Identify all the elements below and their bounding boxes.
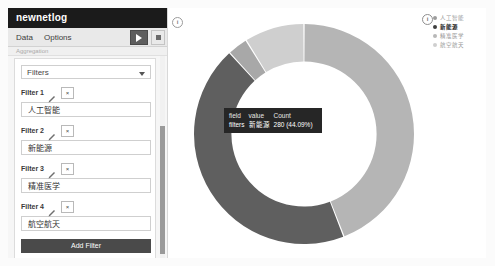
remove-filter-button[interactable]: ×	[61, 125, 74, 137]
filter-label: Filter 2	[21, 125, 44, 137]
visualization-editor-panel: newnetlog Data Options Aggregation Filte…	[8, 8, 168, 258]
legend-color-dot	[433, 34, 437, 38]
legend-item-label: 精准医学	[440, 32, 464, 40]
legend-color-dot	[433, 43, 437, 47]
legend-item[interactable]: 新能源	[433, 23, 483, 31]
chevron-down-icon	[139, 72, 145, 76]
buckets-card: Filters Filter 1 × 人工智能 Filter 2	[14, 58, 156, 258]
tooltip-data-row: filters 新能源 280 (44.09%)	[229, 120, 317, 129]
legend-item-label: 新能源	[440, 23, 458, 31]
add-filter-button[interactable]: Add Filter	[21, 239, 151, 253]
filter-query-input[interactable]: 精准医学	[21, 178, 151, 193]
tooltip-header-field: field	[229, 111, 249, 120]
pencil-icon[interactable]	[48, 127, 56, 135]
legend-item-label: 航空航天	[440, 41, 464, 49]
donut-svg	[190, 20, 418, 248]
legend-info-icon[interactable]: i	[422, 14, 433, 25]
tooltip-field: filters	[229, 120, 249, 129]
pencil-icon[interactable]	[48, 165, 56, 173]
apply-changes-button[interactable]	[130, 30, 148, 45]
filter-row-header: Filter 2 ×	[21, 125, 149, 137]
remove-filter-button[interactable]: ×	[61, 201, 74, 213]
tooltip-header-value: value	[249, 111, 274, 120]
donut-slice[interactable]	[194, 53, 343, 244]
panel-scrollbar-thumb[interactable]	[160, 126, 165, 254]
screen-root: newnetlog Data Options Aggregation Filte…	[0, 0, 495, 266]
legend-color-dot	[433, 25, 437, 29]
tooltip-header-count: Count	[274, 111, 317, 120]
filter-query-input[interactable]: 新能源	[21, 140, 151, 155]
filter-query-input[interactable]: 航空航天	[21, 216, 151, 231]
filter-label: Filter 4	[21, 201, 44, 213]
legend-item-label: 人工智能	[440, 14, 464, 22]
tooltip-value: 新能源	[249, 120, 274, 129]
legend-list: 人工智能 新能源 精准医学 航空航天	[433, 14, 483, 50]
remove-filter-button[interactable]: ×	[61, 163, 74, 175]
legend-color-dot	[433, 16, 437, 20]
donut-chart[interactable]	[190, 20, 418, 248]
chart-tooltip: field value Count filters 新能源 280 (44.09…	[224, 108, 322, 133]
advanced-label: Advanced	[124, 257, 151, 258]
aggregation-section-label: Aggregation	[8, 47, 168, 56]
donut-slices[interactable]	[194, 24, 414, 244]
remove-filter-button[interactable]: ×	[61, 87, 74, 99]
bucket-type-select[interactable]: Filters	[21, 65, 151, 79]
panel-scroll-body: Filters Filter 1 × 人工智能 Filter 2	[8, 56, 168, 258]
pencil-icon[interactable]	[48, 203, 56, 211]
legend-item[interactable]: 精准医学	[433, 32, 483, 40]
legend-item[interactable]: 航空航天	[433, 41, 483, 49]
info-icon[interactable]: i	[172, 17, 183, 28]
editor-tabbar: Data Options	[8, 28, 168, 47]
tooltip-count: 280 (44.09%)	[274, 120, 317, 129]
filter-label: Filter 1	[21, 87, 44, 99]
filter-query-input[interactable]: 人工智能	[21, 102, 151, 117]
filter-row-header: Filter 3 ×	[21, 163, 149, 175]
chart-canvas: i field value Count filters 新能源 280 (44.…	[168, 8, 486, 258]
app-title: newnetlog	[8, 8, 168, 28]
tooltip-header-row: field value Count	[229, 111, 317, 120]
filter-label: Filter 3	[21, 163, 44, 175]
advanced-toggle[interactable]: ▸Advanced	[21, 256, 151, 258]
play-icon	[136, 34, 142, 42]
bucket-type-value: Filters	[27, 66, 49, 80]
filter-row-header: Filter 1 ×	[21, 87, 149, 99]
stop-icon	[156, 35, 161, 40]
legend-item[interactable]: 人工智能	[433, 14, 483, 22]
pencil-icon[interactable]	[48, 89, 56, 97]
filter-row-header: Filter 4 ×	[21, 201, 149, 213]
tab-options[interactable]: Options	[38, 28, 78, 47]
discard-changes-button[interactable]	[151, 30, 165, 45]
tab-data[interactable]: Data	[10, 28, 39, 47]
